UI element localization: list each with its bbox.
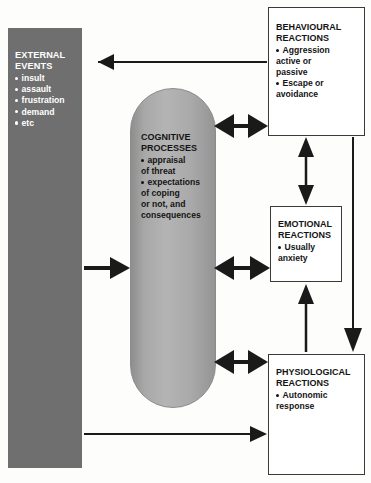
list-item-label: Escape or — [283, 78, 324, 88]
behavioural-reactions-title-line2: REACTIONS — [276, 33, 341, 44]
emotional-reactions-list: Usually anxiety — [278, 242, 342, 264]
arrow-behavioural-to-physiological — [344, 137, 362, 352]
list-item: Aggression — [276, 45, 362, 56]
list-item-label: assault — [22, 84, 52, 94]
list-item-label: demand — [22, 107, 55, 117]
list-item: of coping — [141, 188, 213, 199]
behavioural-reactions-box: BEHAVIOURAL REACTIONS Aggression active … — [268, 7, 365, 136]
list-item: anxiety — [278, 253, 342, 264]
external-events-title-line1: EXTERNAL — [15, 50, 65, 61]
bullet-icon — [15, 77, 18, 80]
list-item-label: frustration — [22, 95, 65, 105]
physiological-reactions-title: PHYSIOLOGICAL REACTIONS — [276, 367, 351, 388]
list-item-label: etc — [22, 118, 34, 128]
list-item: demand — [15, 107, 65, 118]
stress-response-diagram: EXTERNAL EVENTS insult assault frustrati… — [0, 0, 371, 483]
external-events-list: insult assault frustration demand etc — [15, 73, 65, 129]
arrow-cognitive-emotional — [214, 256, 270, 280]
list-item-label: consequences — [141, 210, 201, 220]
external-events-title: EXTERNAL EVENTS — [15, 50, 65, 71]
behavioural-reactions-title-line1: BEHAVIOURAL — [276, 22, 341, 33]
list-item: insult — [15, 73, 65, 84]
list-item-label: passive — [276, 67, 308, 77]
bullet-icon — [15, 121, 18, 124]
list-item: of threat — [141, 166, 213, 177]
emotional-reactions-title-line2: REACTIONS — [278, 230, 332, 241]
list-item: appraisal — [141, 155, 213, 166]
bullet-icon — [15, 99, 18, 102]
list-item-label: of threat — [141, 166, 175, 176]
bullet-icon — [276, 49, 279, 52]
list-item-label: Autonomic — [283, 390, 328, 400]
list-item-label: insult — [22, 73, 45, 83]
list-item: Usually — [278, 242, 342, 253]
list-item-label: active or — [276, 56, 311, 66]
list-item-label: of coping — [141, 188, 180, 198]
arrow-external-to-cognitive — [84, 257, 130, 279]
cognitive-processes-list: appraisal of threat expectations of copi… — [141, 155, 213, 222]
arrow-physiological-to-emotional — [298, 284, 314, 352]
physiological-reactions-title-line1: PHYSIOLOGICAL — [276, 367, 351, 378]
list-item-label: appraisal — [148, 155, 186, 165]
bullet-icon — [278, 246, 281, 249]
emotional-reactions-title-line1: EMOTIONAL — [278, 219, 332, 230]
physiological-reactions-title-line2: REACTIONS — [276, 378, 351, 389]
bullet-icon — [141, 181, 144, 184]
external-events-block: EXTERNAL EVENTS insult assault frustrati… — [8, 28, 82, 468]
list-item: or not, and — [141, 199, 213, 210]
list-item: avoidance — [276, 89, 362, 100]
list-item: etc — [15, 118, 65, 129]
arrow-external-to-physiological — [84, 426, 267, 442]
cognitive-processes-capsule: COGNITIVE PROCESSES appraisal of threat … — [130, 88, 216, 408]
external-events-title-line2: EVENTS — [15, 61, 65, 72]
arrow-cognitive-physiological — [214, 350, 268, 374]
cognitive-processes-title-line2: PROCESSES — [141, 143, 197, 154]
list-item: consequences — [141, 210, 213, 221]
list-item: expectations — [141, 177, 213, 188]
list-item: Escape or — [276, 78, 362, 89]
list-item: response — [276, 401, 362, 412]
list-item: Autonomic — [276, 390, 362, 401]
list-item-label: anxiety — [278, 253, 308, 263]
arrow-cognitive-behavioural — [214, 114, 268, 138]
bullet-icon — [15, 88, 18, 91]
bullet-icon — [276, 394, 279, 397]
list-item-label: Aggression — [283, 45, 330, 55]
list-item-label: Usually — [285, 242, 316, 252]
list-item: active or — [276, 56, 362, 67]
list-item: passive — [276, 67, 362, 78]
cognitive-processes-title: COGNITIVE PROCESSES — [141, 132, 197, 153]
list-item-label: avoidance — [276, 89, 318, 99]
emotional-reactions-title: EMOTIONAL REACTIONS — [278, 219, 332, 240]
physiological-reactions-box: PHYSIOLOGICAL REACTIONS Autonomic respon… — [268, 354, 365, 475]
arrow-behavioural-emotional — [298, 137, 314, 205]
emotional-reactions-box: EMOTIONAL REACTIONS Usually anxiety — [270, 206, 342, 282]
list-item-label: or not, and — [141, 199, 185, 209]
bullet-icon — [141, 159, 144, 162]
list-item: frustration — [15, 95, 65, 106]
list-item-label: response — [276, 401, 314, 411]
behavioural-reactions-title: BEHAVIOURAL REACTIONS — [276, 22, 341, 43]
list-item: assault — [15, 84, 65, 95]
bullet-icon — [15, 110, 18, 113]
cognitive-processes-title-line1: COGNITIVE — [141, 132, 197, 143]
list-item-label: expectations — [148, 177, 201, 187]
physiological-reactions-list: Autonomic response — [276, 390, 362, 412]
behavioural-reactions-list: Aggression active or passive Escape or a… — [276, 45, 362, 100]
bullet-icon — [276, 82, 279, 85]
arrow-behavioural-to-external — [98, 54, 267, 70]
